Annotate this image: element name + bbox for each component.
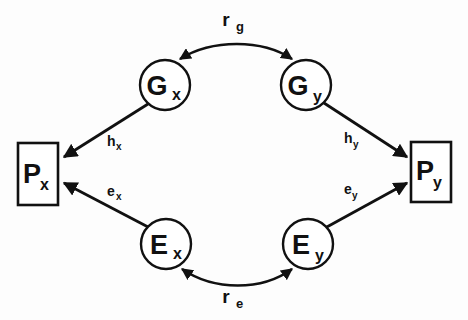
hy-arrow	[324, 103, 407, 157]
hy-label-subscript: y	[353, 139, 359, 150]
rg-double-arrow	[180, 44, 292, 59]
hy-label: h	[344, 130, 353, 146]
node-ey[interactable]: E y	[283, 219, 333, 269]
gx-label-subscript: x	[172, 86, 181, 103]
hx-arrow	[64, 104, 148, 157]
node-ex[interactable]: E x	[141, 219, 191, 269]
re-label-subscript: e	[236, 296, 243, 311]
px-label-subscript: x	[40, 176, 49, 193]
px-label: P	[23, 159, 41, 189]
ey-arrow	[325, 183, 407, 228]
re-label: r	[222, 286, 230, 307]
node-gx[interactable]: G x	[140, 60, 190, 110]
path-diagram-canvas: r g r e h x e x h y e	[0, 0, 468, 320]
re-double-arrow	[182, 269, 292, 286]
rg-label-subscript: g	[236, 19, 244, 34]
path-arrow-ex: e x	[64, 183, 150, 228]
node-px[interactable]: P x	[18, 143, 58, 205]
ex-label: e	[107, 183, 115, 199]
path-arrow-ey: e y	[325, 181, 407, 228]
rg-label: r	[222, 9, 230, 30]
gy-label-subscript: y	[313, 88, 322, 105]
ey-node-label: E	[292, 230, 310, 260]
py-label: P	[416, 156, 434, 186]
path-arrow-hy: h y	[324, 103, 407, 157]
ex-node-label-subscript: x	[173, 245, 182, 262]
correlation-arc-re: r e	[182, 269, 292, 311]
path-arrow-hx: h x	[64, 104, 148, 157]
node-gy[interactable]: G y	[281, 60, 331, 110]
ey-node-label-subscript: y	[315, 247, 324, 264]
ey-label-subscript: y	[352, 190, 358, 201]
node-py[interactable]: P y	[411, 142, 451, 202]
gy-label: G	[287, 71, 308, 101]
hx-label-subscript: x	[116, 141, 122, 152]
hx-label: h	[107, 133, 116, 149]
ex-label-subscript: x	[116, 191, 122, 202]
gx-label: G	[146, 71, 167, 101]
correlation-arc-rg: r g	[180, 9, 292, 59]
py-label-subscript: y	[433, 174, 442, 191]
ex-node-label: E	[150, 230, 168, 260]
path-diagram-svg: r g r e h x e x h y e	[0, 0, 468, 320]
ey-label: e	[344, 181, 352, 197]
